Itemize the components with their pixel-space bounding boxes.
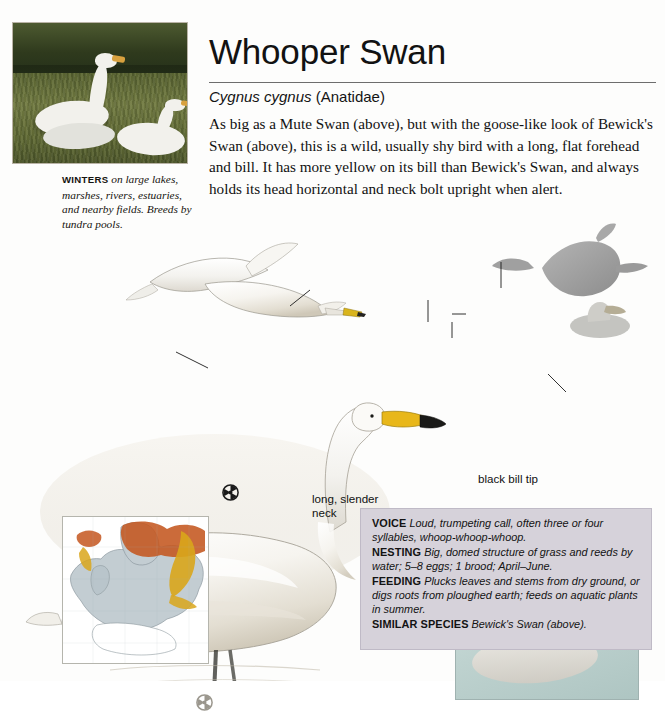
info-row-voice: VOICE Loud, trumpeting call, often three… [372,516,642,545]
info-value-voice: Loud, trumpeting call, often three or fo… [372,517,603,543]
info-row-nesting: NESTING Big, domed structure of grass an… [372,545,642,574]
info-value-similar-species: Bewick's Swan (above). [472,618,587,630]
species-info-box: VOICE Loud, trumpeting call, often three… [360,508,652,650]
family-name: (Anatidae) [316,88,385,105]
info-key-nesting: NESTING [372,546,421,558]
habitat-photo [12,22,188,164]
scientific-name-line: Cygnus cygnus (Anatidae) [209,88,385,105]
adult-symbol-icon [222,484,239,501]
adult-symbol-icon-secondary [196,694,213,711]
habitat-caption-keyword: WINTERS [62,174,108,185]
info-row-feeding: FEEDING Plucks leaves and stems from dry… [372,574,642,617]
info-row-similar-species: SIMILAR SPECIES Bewick's Swan (above). [372,617,642,631]
info-key-similar-species: SIMILAR SPECIES [372,618,469,630]
info-key-voice: VOICE [372,517,406,529]
flying-swan-figure [126,243,366,317]
annotation-black-bill-tip: black bill tip [478,472,538,486]
info-key-feeding: FEEDING [372,575,421,587]
grey-head-study [570,302,630,338]
title-divider [209,82,656,83]
page-title: Whooper Swan [209,32,446,72]
species-description: As big as a Mute Swan (above), but with … [209,113,661,199]
distribution-map [62,516,209,664]
scientific-name: Cygnus cygnus [209,88,312,105]
grey-flying-silhouette [492,224,648,297]
